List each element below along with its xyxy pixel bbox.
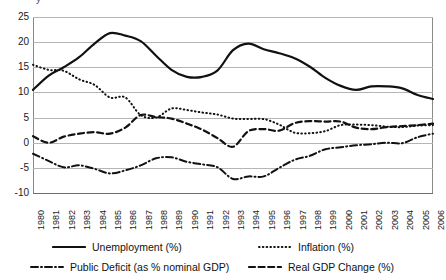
x-axis-tick-label: 1987	[145, 210, 154, 230]
legend-swatch-dash-dot	[30, 262, 64, 272]
x-axis-tick-label: 2004	[406, 210, 415, 230]
x-axis-tick-label: 1981	[52, 210, 61, 230]
x-axis-tick-label: 1994	[252, 210, 261, 230]
x-axis-tick-label: 1999	[329, 210, 338, 230]
x-axis: 1980198119821983198419851986198719881989…	[33, 196, 433, 236]
plot-area	[33, 17, 433, 193]
chart-legend: Unemployment (%)Inflation (%)Public Defi…	[0, 240, 440, 280]
legend-swatch-dashed	[248, 262, 282, 272]
x-axis-tick-label: 2003	[391, 210, 400, 230]
series-line-unemployment	[33, 33, 433, 99]
legend-label: Inflation (%)	[298, 242, 354, 253]
x-axis-tick-label: 1984	[99, 210, 108, 230]
y-axis-tick-label: 5	[1, 113, 29, 123]
x-axis-tick-label: 2005	[422, 210, 431, 230]
y-axis: 2520151050-5-10	[0, 17, 29, 193]
x-axis-tick-label: 1990	[191, 210, 200, 230]
series-line-inflation	[33, 65, 433, 134]
x-axis-tick-label: 1997	[299, 210, 308, 230]
x-axis-tick-label: 1992	[222, 210, 231, 230]
x-axis-tick-label: 2000	[345, 210, 354, 230]
x-axis-tick-label: 2006	[437, 210, 446, 230]
legend-item-real-gdp-change[interactable]: Real GDP Change (%)	[248, 260, 394, 274]
x-axis-tick-label: 1993	[237, 210, 246, 230]
y-axis-tick-label: 15	[1, 62, 29, 72]
x-axis-tick-label: 1980	[37, 210, 46, 230]
x-axis-tick-label: 2002	[375, 210, 384, 230]
x-axis-tick-label: 1986	[129, 210, 138, 230]
legend-item-unemployment[interactable]: Unemployment (%)	[52, 240, 182, 254]
y-axis-tick-label: 20	[1, 37, 29, 47]
series-line-public-deficit-as-nominal-gdp	[33, 134, 433, 180]
x-axis-tick-label: 1988	[160, 210, 169, 230]
x-axis-tick-label: 1985	[114, 210, 123, 230]
legend-swatch-solid	[52, 242, 86, 252]
x-axis-tick-label: 1989	[175, 210, 184, 230]
legend-item-public-deficit[interactable]: Public Deficit (as % nominal GDP)	[30, 260, 229, 274]
y-axis-tick-label: 10	[1, 87, 29, 97]
legend-label: Unemployment (%)	[92, 242, 182, 253]
x-axis-tick-label: 1983	[83, 210, 92, 230]
legend-swatch-dotted	[258, 242, 292, 252]
chart-title: y	[36, 0, 41, 5]
x-axis-tick-label: 1991	[206, 210, 215, 230]
x-axis-tick-label: 1998	[314, 210, 323, 230]
legend-label: Public Deficit (as % nominal GDP)	[70, 262, 229, 273]
x-axis-tick-label: 1996	[283, 210, 292, 230]
legend-label: Real GDP Change (%)	[288, 262, 394, 273]
y-axis-tick-label: 0	[1, 138, 29, 148]
y-axis-tick-label: -10	[1, 188, 29, 198]
x-axis-tick-label: 1982	[68, 210, 77, 230]
legend-item-inflation[interactable]: Inflation (%)	[258, 240, 354, 254]
x-axis-tick-label: 2001	[360, 210, 369, 230]
series-layer	[33, 17, 433, 193]
x-axis-tick-label: 1995	[268, 210, 277, 230]
y-axis-tick-label: -5	[1, 163, 29, 173]
gridline	[33, 193, 433, 194]
y-axis-tick-label: 25	[1, 12, 29, 22]
